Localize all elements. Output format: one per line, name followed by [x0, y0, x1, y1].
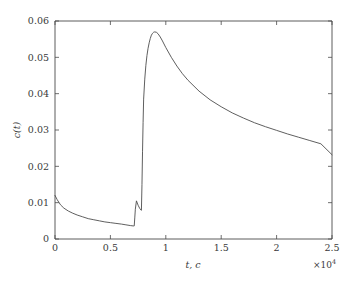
y-tick-labels: 00.010.020.030.040.050.06	[28, 15, 49, 244]
y-tick-label: 0.06	[28, 15, 49, 26]
x-tick-labels: 00.511.522.5	[52, 242, 340, 253]
y-tick-label: 0.03	[28, 124, 49, 135]
x-tick-label: 2.5	[324, 242, 339, 253]
x-tick-label: 1	[163, 242, 169, 253]
x-axis-exponent: ×104	[313, 258, 336, 270]
y-tick-label: 0.05	[28, 52, 49, 63]
x-axis-exponent-base: ×10	[313, 260, 332, 270]
x-tick-label: 1.5	[214, 242, 229, 253]
x-tick-label: 2	[274, 242, 280, 253]
y-axis-title: c(t)	[11, 121, 22, 138]
data-series-group	[55, 32, 332, 226]
x-tick-label: 0	[52, 242, 58, 253]
x-tick-label: 0.5	[103, 242, 118, 253]
chart-figure: 00.511.522.5 00.010.020.030.040.050.06 t…	[0, 0, 353, 284]
x-tick-marks	[55, 21, 332, 239]
plot-canvas: 00.511.522.5 00.010.020.030.040.050.06 t…	[0, 0, 353, 284]
y-tick-label: 0.04	[28, 88, 49, 99]
axis-frame	[55, 21, 332, 239]
y-tick-label: 0	[43, 233, 49, 244]
data-curve	[55, 32, 332, 226]
y-tick-label: 0.01	[28, 197, 49, 208]
x-axis-title: t, c	[185, 259, 201, 270]
x-axis-exponent-power: 4	[332, 258, 336, 266]
y-tick-marks	[55, 21, 332, 239]
y-tick-label: 0.02	[28, 161, 49, 172]
